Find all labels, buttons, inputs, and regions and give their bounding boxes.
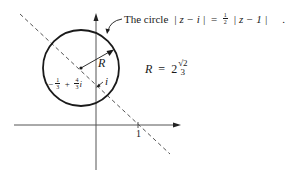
radius-arrow-icon [107, 50, 115, 57]
center-label: − 13 + 43i [48, 80, 82, 90]
caption-half-fraction: 12 [223, 12, 228, 25]
caption-dot: . [282, 13, 285, 25]
imaginary-axis-arrow-icon [94, 13, 99, 21]
tick-label-1: 1 [136, 129, 141, 139]
caption-lhs: | z − i | [174, 13, 206, 25]
complex-plane-diagram [0, 0, 304, 178]
caption-eq: = [211, 13, 217, 25]
radius-label: R [98, 57, 105, 69]
point-i-label: i [105, 76, 108, 87]
caption-prefix: The circle [124, 13, 168, 25]
caption-leader-line [108, 19, 122, 31]
real-axis-arrow-icon [173, 123, 181, 128]
caption-leader-arrow-icon [106, 29, 111, 35]
radius-fraction: √23 [177, 59, 188, 77]
caption-rhs: | z − 1 | [233, 13, 267, 25]
perpendicular-bisector-dashed-line [20, 14, 170, 154]
radius-value-equation: R = 2√23 [145, 63, 189, 77]
circle-caption: The circle | z − i | = 12 | z − 1 | . [124, 14, 285, 25]
